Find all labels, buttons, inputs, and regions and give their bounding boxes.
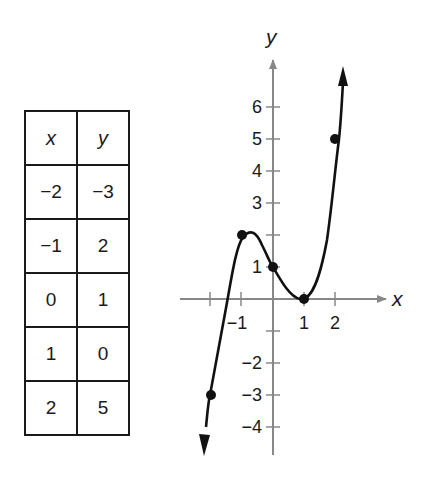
y-tick-label: 4: [252, 161, 262, 181]
curve-arrow-down-icon: [199, 434, 210, 456]
cubic-graph: y x 6 5 4 3 1 −2 −3 −4 −1 1 2: [0, 0, 432, 480]
y-tick-label: 5: [252, 129, 262, 149]
cubic-curve: [206, 82, 343, 427]
x-tick-label: 1: [299, 313, 309, 333]
y-tick-label: −3: [241, 385, 262, 405]
y-tick-label: 3: [252, 193, 262, 213]
y-tick-label: −4: [241, 417, 262, 437]
x-tick-label: 2: [330, 313, 340, 333]
x-axis-label: x: [391, 287, 404, 310]
curve-arrow-up-icon: [338, 66, 348, 86]
y-tick-label: 1: [252, 257, 262, 277]
y-tick-label: 6: [252, 97, 262, 117]
y-tick-label: −2: [241, 353, 262, 373]
x-tick-label: −1: [227, 313, 248, 333]
y-axis-label: y: [264, 25, 278, 48]
